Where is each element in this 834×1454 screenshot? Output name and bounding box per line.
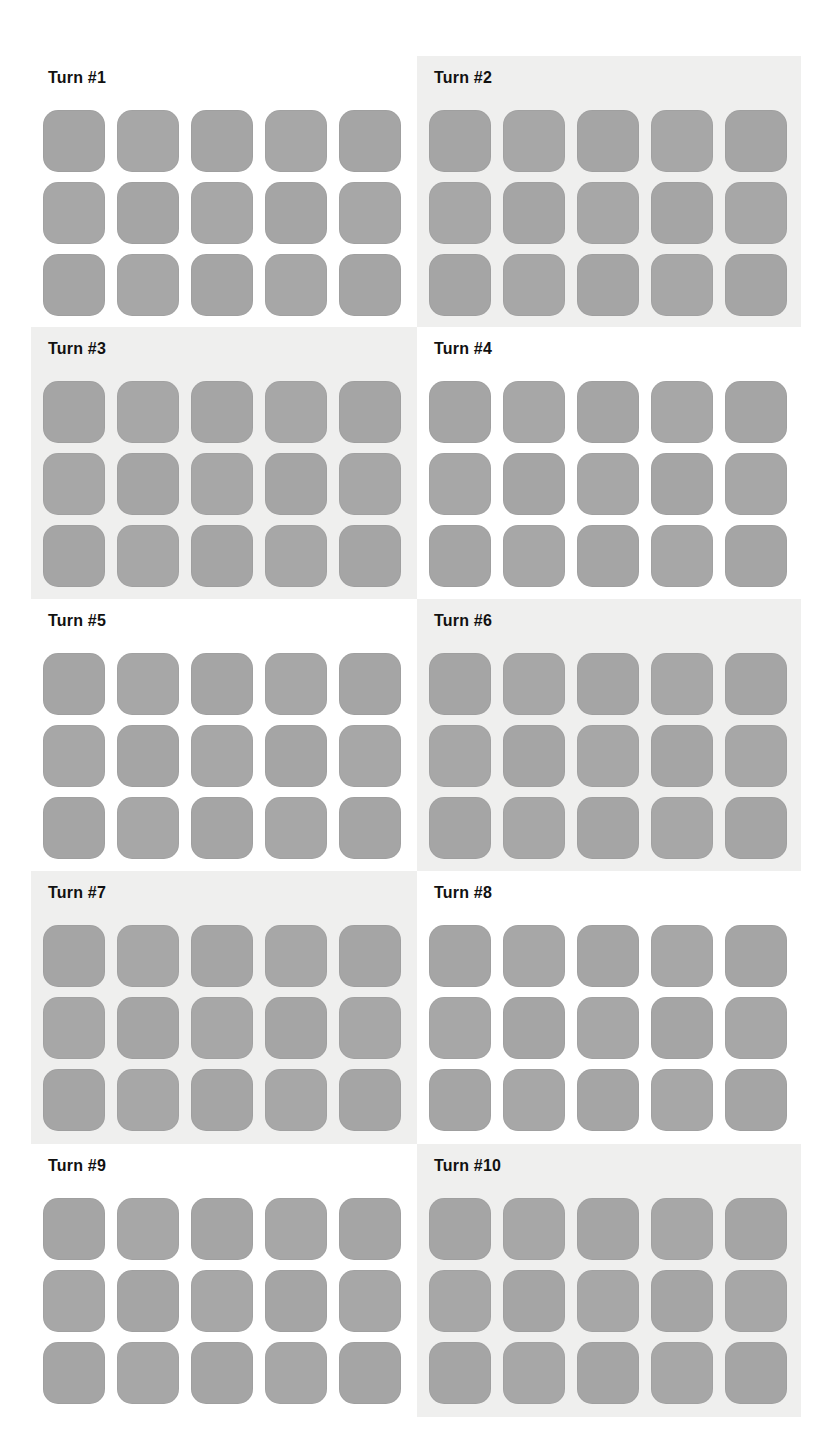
card-tile[interactable] — [339, 725, 401, 787]
card-tile[interactable] — [43, 925, 105, 987]
card-tile[interactable] — [503, 254, 565, 316]
card-tile[interactable] — [191, 1198, 253, 1260]
card-tile[interactable] — [265, 1069, 327, 1131]
card-tile[interactable] — [265, 182, 327, 244]
card-tile[interactable] — [339, 381, 401, 443]
card-tile[interactable] — [339, 797, 401, 859]
card-tile[interactable] — [339, 997, 401, 1059]
card-tile[interactable] — [117, 453, 179, 515]
card-tile[interactable] — [651, 925, 713, 987]
card-tile[interactable] — [339, 925, 401, 987]
card-tile[interactable] — [191, 997, 253, 1059]
card-tile[interactable] — [429, 381, 491, 443]
card-tile[interactable] — [577, 1198, 639, 1260]
card-tile[interactable] — [339, 1342, 401, 1404]
card-tile[interactable] — [265, 725, 327, 787]
card-tile[interactable] — [191, 381, 253, 443]
card-tile[interactable] — [429, 925, 491, 987]
card-tile[interactable] — [117, 525, 179, 587]
card-tile[interactable] — [577, 925, 639, 987]
card-tile[interactable] — [725, 797, 787, 859]
card-tile[interactable] — [651, 997, 713, 1059]
card-tile[interactable] — [577, 997, 639, 1059]
card-tile[interactable] — [43, 453, 105, 515]
card-tile[interactable] — [725, 1069, 787, 1131]
card-tile[interactable] — [577, 797, 639, 859]
card-tile[interactable] — [577, 1270, 639, 1332]
card-tile[interactable] — [43, 381, 105, 443]
card-tile[interactable] — [339, 110, 401, 172]
card-tile[interactable] — [191, 453, 253, 515]
card-tile[interactable] — [429, 997, 491, 1059]
card-tile[interactable] — [429, 1069, 491, 1131]
card-tile[interactable] — [725, 925, 787, 987]
card-tile[interactable] — [651, 1342, 713, 1404]
card-tile[interactable] — [651, 797, 713, 859]
card-tile[interactable] — [725, 110, 787, 172]
card-tile[interactable] — [725, 725, 787, 787]
card-tile[interactable] — [339, 653, 401, 715]
card-tile[interactable] — [651, 110, 713, 172]
card-tile[interactable] — [117, 1342, 179, 1404]
card-tile[interactable] — [191, 110, 253, 172]
card-tile[interactable] — [117, 1069, 179, 1131]
card-tile[interactable] — [43, 525, 105, 587]
card-tile[interactable] — [429, 182, 491, 244]
card-tile[interactable] — [429, 797, 491, 859]
card-tile[interactable] — [191, 525, 253, 587]
card-tile[interactable] — [429, 110, 491, 172]
card-tile[interactable] — [503, 1198, 565, 1260]
card-tile[interactable] — [117, 653, 179, 715]
card-tile[interactable] — [265, 653, 327, 715]
card-tile[interactable] — [265, 525, 327, 587]
card-tile[interactable] — [429, 525, 491, 587]
card-tile[interactable] — [339, 525, 401, 587]
card-tile[interactable] — [503, 1270, 565, 1332]
card-tile[interactable] — [339, 1069, 401, 1131]
card-tile[interactable] — [503, 1069, 565, 1131]
card-tile[interactable] — [117, 997, 179, 1059]
card-tile[interactable] — [43, 182, 105, 244]
card-tile[interactable] — [265, 997, 327, 1059]
card-tile[interactable] — [43, 254, 105, 316]
card-tile[interactable] — [191, 797, 253, 859]
card-tile[interactable] — [429, 653, 491, 715]
card-tile[interactable] — [577, 1342, 639, 1404]
card-tile[interactable] — [577, 381, 639, 443]
card-tile[interactable] — [117, 725, 179, 787]
card-tile[interactable] — [725, 182, 787, 244]
card-tile[interactable] — [577, 525, 639, 587]
card-tile[interactable] — [339, 1198, 401, 1260]
card-tile[interactable] — [43, 110, 105, 172]
card-tile[interactable] — [265, 797, 327, 859]
card-tile[interactable] — [429, 1198, 491, 1260]
card-tile[interactable] — [265, 254, 327, 316]
card-tile[interactable] — [191, 182, 253, 244]
card-tile[interactable] — [117, 381, 179, 443]
card-tile[interactable] — [725, 254, 787, 316]
card-tile[interactable] — [43, 725, 105, 787]
card-tile[interactable] — [43, 1069, 105, 1131]
card-tile[interactable] — [651, 254, 713, 316]
card-tile[interactable] — [265, 453, 327, 515]
card-tile[interactable] — [191, 1069, 253, 1131]
card-tile[interactable] — [725, 1198, 787, 1260]
card-tile[interactable] — [651, 525, 713, 587]
card-tile[interactable] — [503, 110, 565, 172]
card-tile[interactable] — [191, 1270, 253, 1332]
card-tile[interactable] — [117, 254, 179, 316]
card-tile[interactable] — [503, 725, 565, 787]
card-tile[interactable] — [117, 182, 179, 244]
card-tile[interactable] — [117, 925, 179, 987]
card-tile[interactable] — [43, 997, 105, 1059]
card-tile[interactable] — [339, 182, 401, 244]
card-tile[interactable] — [43, 1270, 105, 1332]
card-tile[interactable] — [503, 653, 565, 715]
card-tile[interactable] — [191, 1342, 253, 1404]
card-tile[interactable] — [725, 1270, 787, 1332]
card-tile[interactable] — [503, 525, 565, 587]
card-tile[interactable] — [117, 110, 179, 172]
card-tile[interactable] — [43, 1198, 105, 1260]
card-tile[interactable] — [651, 1069, 713, 1131]
card-tile[interactable] — [503, 453, 565, 515]
